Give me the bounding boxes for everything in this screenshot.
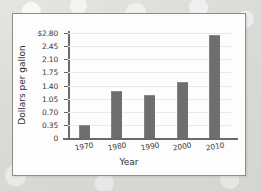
y-axis-tick-label: 1.40 bbox=[42, 81, 58, 90]
y-axis-tick: $2.80 bbox=[64, 33, 68, 34]
y-axis-tick-label: 0.35 bbox=[42, 120, 58, 129]
bar bbox=[79, 125, 90, 138]
x-axis-tick-label: 2010 bbox=[205, 141, 224, 153]
gridline bbox=[68, 86, 231, 87]
gridline bbox=[68, 59, 231, 60]
y-axis-tick-label: 2.45 bbox=[42, 42, 58, 51]
bar bbox=[111, 91, 122, 138]
y-axis-tick: 0 bbox=[64, 138, 68, 139]
y-axis-tick-label: 1.75 bbox=[42, 68, 58, 77]
y-axis-title: Dollars per gallon bbox=[17, 30, 29, 140]
y-axis-tick: 1.05 bbox=[64, 99, 68, 100]
y-axis-tick-label: $2.80 bbox=[38, 29, 58, 38]
plot-area: 00.350.701.051.401.752.102.45$2.80 bbox=[68, 33, 231, 138]
x-axis-tick-label: 1980 bbox=[107, 141, 126, 153]
y-axis-tick-label: 0 bbox=[53, 134, 58, 143]
bar bbox=[144, 95, 155, 138]
y-axis-tick: 0.35 bbox=[64, 125, 68, 126]
y-axis-tick: 2.10 bbox=[64, 59, 68, 60]
x-axis-line bbox=[63, 138, 238, 140]
bar bbox=[177, 82, 188, 138]
x-axis-tick-label: 1990 bbox=[140, 141, 159, 153]
y-axis-tick: 1.75 bbox=[64, 72, 68, 73]
y-axis-tick-label: 0.70 bbox=[42, 107, 58, 116]
y-axis-tick: 1.40 bbox=[64, 86, 68, 87]
x-axis-title: Year bbox=[13, 157, 245, 167]
screenshot-page: 00.350.701.051.401.752.102.45$2.80 19701… bbox=[0, 0, 261, 191]
x-axis-tick-label: 2000 bbox=[172, 141, 191, 153]
y-axis-tick: 2.45 bbox=[64, 46, 68, 47]
y-axis-tick-label: 2.10 bbox=[42, 55, 58, 64]
bar bbox=[209, 35, 220, 138]
y-axis-tick: 0.70 bbox=[64, 112, 68, 113]
chart-card: 00.350.701.051.401.752.102.45$2.80 19701… bbox=[12, 13, 246, 176]
gridline bbox=[68, 46, 231, 47]
y-axis-tick-label: 1.05 bbox=[42, 94, 58, 103]
x-axis-tick-label: 1970 bbox=[75, 141, 94, 153]
gridline bbox=[68, 72, 231, 73]
gridline bbox=[68, 33, 231, 34]
